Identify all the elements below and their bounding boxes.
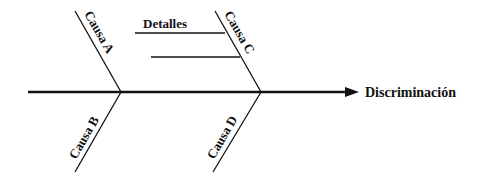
cause-d-label: Causa D bbox=[204, 113, 241, 161]
fishbone-diagram: Discriminación Detalles Causa A Causa B … bbox=[0, 0, 485, 185]
diagram-canvas: Discriminación Detalles Causa A Causa B … bbox=[0, 0, 485, 185]
effect-label: Discriminación bbox=[365, 85, 456, 100]
cause-b-label: Causa B bbox=[66, 113, 102, 161]
details-label: Detalles bbox=[143, 16, 187, 31]
arrow-head-icon bbox=[345, 87, 359, 97]
